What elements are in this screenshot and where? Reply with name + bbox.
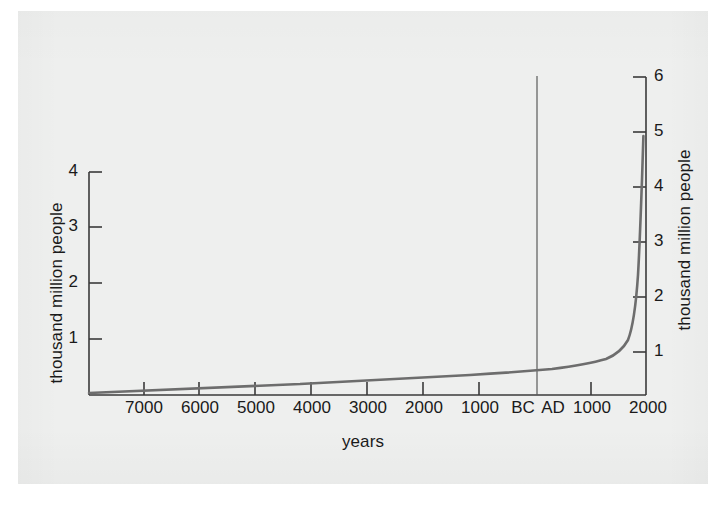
x-axis-title: years — [0, 432, 726, 452]
y-right-tick-label-6: 6 — [654, 66, 684, 86]
left-axis-ticks — [89, 172, 102, 339]
x-tick-label-bc: BC — [508, 398, 538, 418]
population-curve — [89, 136, 643, 393]
x-tick-label-2000ad: 2000 — [620, 398, 676, 418]
y-left-tick-label-3: 3 — [48, 216, 78, 236]
x-tick-label-6000bc: 6000 — [172, 398, 228, 418]
x-tick-label-2000bc: 2000 — [396, 398, 452, 418]
y-left-tick-label-4: 4 — [48, 161, 78, 181]
x-tick-label-7000bc: 7000 — [116, 398, 172, 418]
y-right-tick-label-1: 1 — [654, 341, 684, 361]
x-tick-label-3000bc: 3000 — [340, 398, 396, 418]
x-tick-label-1000ad: 1000 — [564, 398, 620, 418]
y-right-tick-label-2: 2 — [654, 286, 684, 306]
x-tick-label-5000bc: 5000 — [228, 398, 284, 418]
x-tick-label-1000bc: 1000 — [452, 398, 508, 418]
chart-plot-area: thousand million people thousand million… — [0, 0, 726, 513]
y-axis-left-title: thousand million people — [47, 178, 67, 408]
y-right-tick-label-3: 3 — [654, 231, 684, 251]
y-right-tick-label-4: 4 — [654, 176, 684, 196]
figure-container: thousand million people thousand million… — [0, 0, 726, 513]
y-left-tick-label-1: 1 — [48, 328, 78, 348]
y-right-tick-label-5: 5 — [654, 121, 684, 141]
y-left-tick-label-2: 2 — [48, 272, 78, 292]
x-tick-label-4000bc: 4000 — [284, 398, 340, 418]
